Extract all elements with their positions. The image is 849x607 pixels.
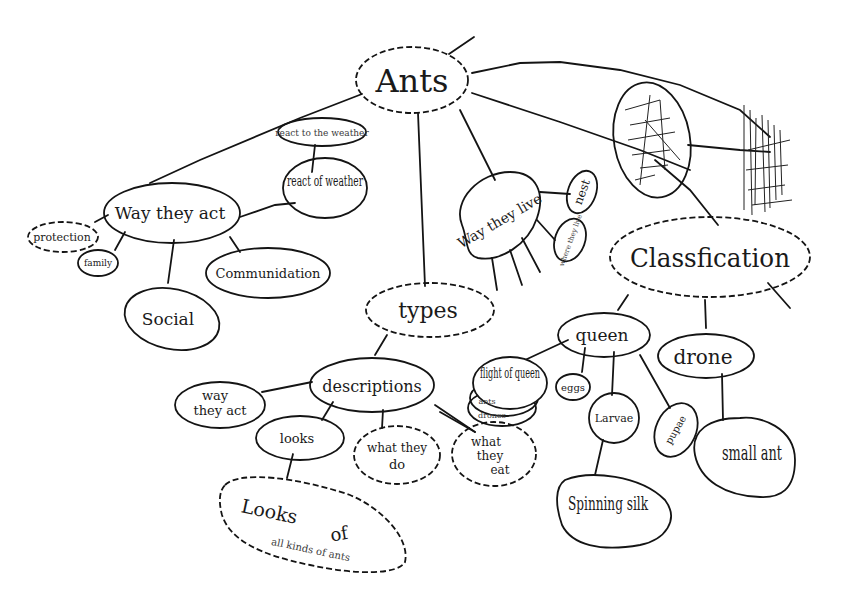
node-looks-label: looks: [280, 431, 314, 446]
node-nest[interactable]: nest: [561, 167, 602, 218]
edge-queen-eggs: [582, 348, 585, 372]
node-what-they-eat-line2: they: [477, 449, 504, 463]
node-queen-label: queen: [576, 325, 629, 345]
node-way-they-act-desc-line1: way: [202, 388, 229, 403]
edge-queen-larvae: [612, 352, 614, 395]
edge-ants-waytheyact: [150, 94, 362, 183]
node-way-they-act-desc[interactable]: way they act: [175, 382, 265, 428]
node-flight-sub2-label: drones: [478, 411, 506, 420]
scribble-marks: [625, 95, 680, 185]
edge-live-dangle-1: [492, 258, 497, 290]
edge-ants-stub: [449, 37, 474, 54]
node-flight-sub1-label: ants: [478, 397, 495, 406]
node-classification[interactable]: Classfication: [610, 217, 810, 297]
edge-ants-types: [418, 113, 425, 286]
node-flight-label: flight of queen: [480, 365, 540, 381]
node-where-they-live[interactable]: where they live: [548, 213, 591, 267]
node-larvae[interactable]: Larvae: [589, 393, 639, 443]
node-looks-of-ants-oval: [220, 477, 406, 572]
node-social[interactable]: Social: [119, 280, 225, 359]
node-where-they-live-label: where they live: [558, 213, 584, 267]
edge-live-dangle-3: [522, 238, 540, 272]
node-what-they-do-line1: what they: [367, 441, 427, 455]
edge-ants-scribble: [472, 93, 690, 170]
node-way-they-act-desc-line2: they act: [193, 403, 247, 418]
edge-queen-pupae: [640, 355, 670, 408]
node-react-small-label: react to the weather: [275, 128, 369, 138]
edge-desc-waytheyact: [262, 382, 312, 392]
scribble-patch-right: [744, 105, 792, 215]
edge-larvae-silk: [595, 440, 603, 475]
edge-ants-waytheylive: [460, 110, 495, 180]
node-eggs-label: eggs: [561, 382, 585, 393]
node-eggs[interactable]: eggs: [556, 374, 590, 400]
node-protection[interactable]: protection: [28, 222, 98, 252]
node-what-they-eat-line1: what: [471, 435, 501, 449]
node-looks-of-line2: of: [328, 522, 350, 546]
node-communication[interactable]: Communidation: [206, 248, 330, 298]
scribble-strokes: [744, 105, 792, 215]
edge-live-dangle-2: [510, 250, 522, 285]
node-way-they-live-label: Way they live: [455, 190, 545, 251]
edge-waytheyact-comm: [230, 237, 240, 252]
node-ants-label: Ants: [375, 62, 449, 100]
node-small-ant[interactable]: small ant: [694, 418, 795, 498]
edge-looks-looksof: [287, 454, 293, 478]
node-what-they-eat-line3: eat: [490, 463, 509, 477]
node-small-ant-label: small ant: [722, 441, 782, 465]
edge-scribble-right: [688, 145, 770, 152]
node-react-weather-label: react of weather: [287, 172, 363, 190]
node-looks[interactable]: looks: [256, 416, 344, 460]
node-scribbled: [605, 76, 700, 203]
node-react-weather[interactable]: react of weather: [283, 158, 367, 218]
node-flight-of-queen[interactable]: flight of queen ants drones: [468, 357, 547, 426]
edge-types-descriptions: [375, 335, 387, 355]
node-react-small[interactable]: react to the weather: [275, 118, 369, 146]
node-what-they-do-oval: [354, 426, 440, 484]
edge-desc-whattheydo: [382, 410, 383, 428]
edge-class-queen: [618, 295, 628, 310]
node-family[interactable]: family: [78, 250, 118, 276]
node-family-label: family: [84, 258, 113, 268]
concept-map-canvas: Ants react to the weather react of weath…: [0, 0, 849, 607]
node-types-label: types: [398, 298, 458, 323]
node-way-they-act[interactable]: Way they act: [104, 183, 240, 243]
node-classification-label: Classfication: [630, 243, 790, 273]
node-queen[interactable]: queen: [558, 313, 650, 357]
node-scribbled-oval: [605, 76, 700, 203]
node-drone-label: drone: [673, 345, 732, 369]
node-descriptions[interactable]: descriptions: [310, 358, 434, 412]
edge-drone-smallant: [722, 374, 723, 420]
edge-scribble-classification: [655, 160, 718, 225]
node-spinning-silk[interactable]: Spinning silk: [557, 475, 671, 547]
node-way-they-act-label: Way they act: [115, 203, 226, 223]
node-pupae[interactable]: pupae: [646, 396, 706, 464]
node-larvae-label: Larvae: [595, 412, 633, 425]
edge-live-where: [537, 220, 555, 240]
node-way-they-live[interactable]: Way they live: [455, 172, 545, 259]
node-communication-label: Communidation: [216, 266, 322, 281]
node-pupae-label: pupae: [663, 413, 688, 446]
node-protection-label: protection: [33, 231, 91, 244]
node-what-they-do-line2: do: [389, 457, 405, 472]
node-drone[interactable]: drone: [658, 334, 754, 378]
node-looks-of-line1: Looks: [239, 494, 299, 527]
edge-waytheyact-react: [240, 203, 295, 217]
node-social-label: Social: [142, 309, 194, 329]
node-spinning-silk-label: Spinning silk: [568, 493, 649, 514]
node-types[interactable]: types: [366, 283, 494, 337]
node-what-they-do[interactable]: what they do: [354, 426, 440, 484]
node-what-they-eat[interactable]: what they eat: [452, 422, 536, 486]
node-ants[interactable]: Ants: [356, 47, 468, 113]
node-looks-of-ants[interactable]: Looks of all kinds of ants: [220, 477, 406, 572]
edge-class-drone: [705, 300, 706, 328]
edge-live-nest: [540, 192, 570, 194]
edge-waytheyact-social: [168, 240, 174, 283]
node-descriptions-label: descriptions: [322, 377, 422, 396]
node-nest-label: nest: [571, 177, 593, 206]
